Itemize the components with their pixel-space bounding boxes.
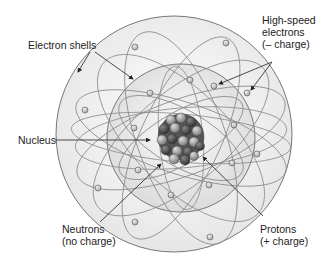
label-neutrons: Neutrons (no charge) [62, 223, 116, 247]
label-high-speed-electrons: High-speed electrons (– charge) [262, 14, 316, 50]
label-line: High-speed [262, 14, 316, 26]
label-line: (no charge) [62, 235, 116, 247]
label-line: (+ charge) [260, 235, 308, 247]
label-electron-shells: Electron shells [28, 39, 96, 51]
label-protons: Protons (+ charge) [260, 223, 308, 247]
label-nucleus: Nucleus [18, 134, 56, 146]
label-line: Protons [260, 223, 308, 235]
label-line: electrons [262, 26, 316, 38]
label-line: (– charge) [262, 38, 316, 50]
label-line: Neutrons [62, 223, 116, 235]
